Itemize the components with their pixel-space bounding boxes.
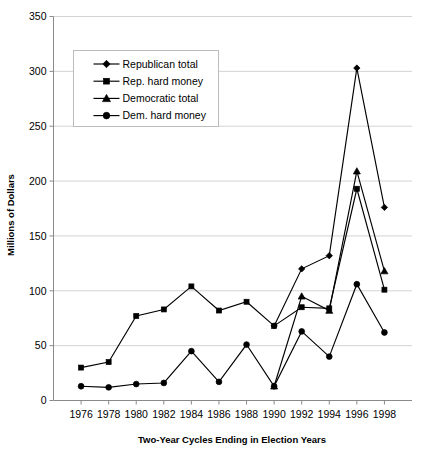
campaign-finance-line-chart: 050100150200250300350 197619781980198219… <box>0 0 421 451</box>
y-tick-label: 250 <box>29 120 47 132</box>
data-point-rep-hard-money <box>272 323 277 328</box>
x-tick-label: 1986 <box>207 408 231 420</box>
data-point-dem-hard-money <box>271 383 277 389</box>
data-point-rep-hard-money <box>79 365 84 370</box>
legend: Republican totalRep. hard moneyDemocrati… <box>74 51 219 127</box>
data-point-rep-hard-money <box>354 186 359 191</box>
y-tick-label: 350 <box>29 10 47 22</box>
x-tick-label: 1980 <box>125 408 149 420</box>
data-point-rep-hard-money <box>134 314 139 319</box>
legend-label: Dem. hard money <box>123 109 207 121</box>
y-tick-label: 0 <box>41 394 47 406</box>
x-tick-label: 1990 <box>262 408 286 420</box>
y-axis-title: Millions of Dollars <box>5 174 16 256</box>
data-point-dem-hard-money <box>326 354 332 360</box>
x-tick-label: 1978 <box>97 408 121 420</box>
chart-container: 050100150200250300350 197619781980198219… <box>0 0 421 451</box>
data-point-rep-hard-money <box>189 284 194 289</box>
legend-marker-circle <box>103 112 110 119</box>
x-tick-label: 1982 <box>152 408 176 420</box>
data-point-dem-hard-money <box>382 330 388 336</box>
y-tick-label: 100 <box>29 285 47 297</box>
data-point-dem-hard-money <box>161 380 167 386</box>
data-point-rep-hard-money <box>382 287 387 292</box>
data-point-dem-hard-money <box>106 384 112 390</box>
x-tick-label: 1992 <box>290 408 314 420</box>
data-point-dem-hard-money <box>354 281 360 287</box>
y-tick-label: 200 <box>29 175 47 187</box>
data-point-rep-hard-money <box>216 308 221 313</box>
y-tick-label: 150 <box>29 230 47 242</box>
y-tick-label: 300 <box>29 65 47 77</box>
x-tick-label: 1994 <box>318 408 342 420</box>
data-point-rep-hard-money <box>161 307 166 312</box>
data-point-dem-hard-money <box>244 342 250 348</box>
legend-label: Democratic total <box>123 92 199 104</box>
x-tick-label: 1984 <box>180 408 204 420</box>
x-axis-title: Two-Year Cycles Ending in Election Years <box>138 434 326 445</box>
data-point-dem-hard-money <box>188 348 194 354</box>
data-point-dem-hard-money <box>133 381 139 387</box>
x-tick-label: 1998 <box>373 408 397 420</box>
data-point-dem-hard-money <box>299 328 305 334</box>
y-tick-label: 50 <box>35 339 47 351</box>
data-point-dem-hard-money <box>78 383 84 389</box>
data-point-rep-hard-money <box>299 305 304 310</box>
data-point-rep-hard-money <box>244 299 249 304</box>
legend-label: Republican total <box>123 58 198 70</box>
x-tick-label: 1976 <box>69 408 93 420</box>
legend-label: Rep. hard money <box>123 75 204 87</box>
x-tick-label: 1988 <box>235 408 259 420</box>
data-point-dem-hard-money <box>216 379 222 385</box>
data-point-rep-hard-money <box>106 360 111 365</box>
x-tick-label: 1996 <box>345 408 369 420</box>
legend-marker-square <box>104 78 110 84</box>
